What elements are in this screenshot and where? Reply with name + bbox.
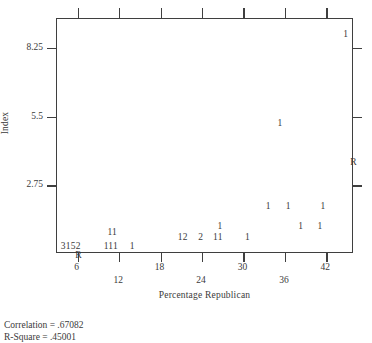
- x-axis-tick-labels: 6121824303642: [56, 253, 353, 289]
- y-tick-label-5.5: 5.5: [31, 111, 43, 121]
- left-tick-5.5: [47, 117, 57, 118]
- y-tick-label-2.75: 2.75: [26, 179, 43, 189]
- plot-area: 315211111112211111111111RR: [56, 18, 353, 253]
- data-point: 1: [286, 202, 291, 212]
- y-tick-label-8.25: 8.25: [26, 42, 43, 52]
- data-point: 1: [343, 30, 348, 40]
- data-point: 1: [245, 233, 250, 243]
- top-tick-12: [119, 8, 120, 19]
- top-tick-24: [202, 8, 203, 19]
- x-tick-label-36: 36: [279, 275, 289, 285]
- top-tick-18: [161, 8, 162, 19]
- data-point: 2: [198, 233, 203, 243]
- x-tick-label-18: 18: [155, 262, 165, 272]
- x-tick-label-6: 6: [74, 262, 79, 272]
- top-tick-6: [78, 8, 79, 19]
- right-tick-2.75: [352, 185, 362, 186]
- statistic-line: R-Square = .45001: [4, 332, 84, 343]
- x-tick-label-12: 12: [113, 275, 123, 285]
- left-tick-8.25: [47, 48, 57, 49]
- x-tick-label-24: 24: [196, 275, 206, 285]
- x-tick-label-42: 42: [321, 262, 331, 272]
- data-point: 1: [318, 222, 323, 232]
- data-point: 1: [320, 202, 325, 212]
- x-axis-title: Percentage Republican: [56, 290, 353, 300]
- data-point: 1: [266, 202, 271, 212]
- right-tick-8.25: [352, 48, 362, 49]
- data-point: 1: [278, 119, 283, 129]
- statistics-block: Correlation = .67082R-Square = .45001: [4, 320, 84, 343]
- y-axis-tick-labels: 2.755.58.25: [0, 18, 56, 253]
- left-tick-2.75: [47, 185, 57, 186]
- data-point: 111: [104, 242, 118, 252]
- data-point: 1: [217, 222, 222, 232]
- top-tick-36: [285, 8, 286, 19]
- regression-marker: R: [350, 158, 356, 168]
- data-point: 11: [213, 233, 223, 243]
- top-tick-30: [243, 8, 244, 19]
- top-tick-42: [326, 8, 327, 19]
- statistic-line: Correlation = .67082: [4, 320, 84, 332]
- data-point: 1: [298, 222, 303, 232]
- right-tick-5.5: [352, 117, 362, 118]
- data-point: 12: [178, 233, 188, 243]
- x-tick-label-30: 30: [238, 262, 248, 272]
- data-point: 1: [130, 242, 135, 252]
- data-point: 11: [107, 228, 117, 238]
